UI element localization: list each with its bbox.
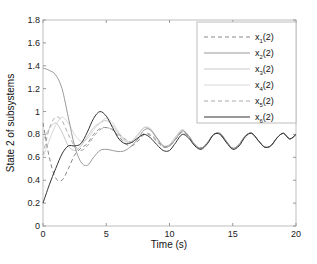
x-tick-label: 15 <box>228 229 238 239</box>
y-tick-label: 0.2 <box>27 198 40 208</box>
x-axis-label: Time (s) <box>151 239 187 250</box>
y-tick-label: 0.4 <box>27 175 40 185</box>
y-tick-label: 1.6 <box>27 38 40 48</box>
x-tick-label: 0 <box>40 229 45 239</box>
line-chart: 00.20.40.60.811.21.41.61.8 05101520 Time… <box>0 0 317 264</box>
y-tick-label: 1.4 <box>27 61 40 71</box>
x-tick-label: 10 <box>164 229 174 239</box>
y-tick-label: 1 <box>35 107 40 117</box>
y-tick-label: 0.6 <box>27 152 40 162</box>
y-tick-label: 0.8 <box>27 129 40 139</box>
y-tick-label: 1.2 <box>27 84 40 94</box>
y-tick-label: 0 <box>35 221 40 231</box>
x-tick-label: 5 <box>104 229 109 239</box>
legend: x1(2)x2(2)x3(2)x4(2)x5(2)x6(2) <box>197 22 296 124</box>
y-axis-label: State 2 of subsystems <box>5 74 16 172</box>
x-tick-label: 20 <box>291 229 301 239</box>
y-tick-label: 1.8 <box>27 15 40 25</box>
